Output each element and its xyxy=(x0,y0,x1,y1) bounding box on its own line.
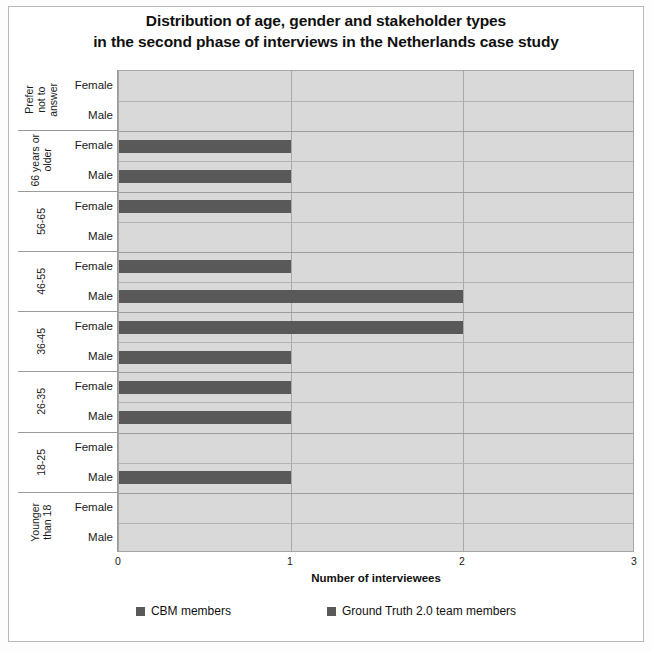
age-group-row: Younger than 18FemaleMale xyxy=(18,492,118,552)
gender-label-male: Male xyxy=(60,160,114,190)
chart-legend: CBM membersGround Truth 2.0 team members xyxy=(0,604,652,618)
mid-gridline xyxy=(119,463,633,464)
gender-label-pair: FemaleMale xyxy=(60,251,114,311)
age-group-row: 18-25FemaleMale xyxy=(18,432,118,492)
bar xyxy=(119,471,291,484)
x-axis-tick-label: 2 xyxy=(459,555,465,567)
gender-label-female: Female xyxy=(60,371,114,401)
group-separator-gridline xyxy=(119,252,633,253)
gender-label-female: Female xyxy=(60,70,114,100)
group-separator-gridline xyxy=(119,493,633,494)
age-group-label-text: 46-55 xyxy=(35,268,47,295)
age-group-label-text: 56-65 xyxy=(35,208,47,235)
legend-swatch-icon xyxy=(327,607,336,616)
age-group-row: 26-35FemaleMale xyxy=(18,371,118,431)
category-axis: Prefer not to answerFemaleMale66 years o… xyxy=(18,70,118,552)
bar xyxy=(119,411,291,424)
gender-label-pair: FemaleMale xyxy=(60,371,114,431)
gender-label-pair: FemaleMale xyxy=(60,70,114,130)
bar xyxy=(119,351,291,364)
age-group-label: 56-65 xyxy=(18,191,64,251)
gender-label-pair: FemaleMale xyxy=(60,130,114,190)
x-axis-tick-label: 0 xyxy=(115,555,121,567)
gender-label-pair: FemaleMale xyxy=(60,432,114,492)
chart-title-line-2: in the second phase of interviews in the… xyxy=(0,31,652,52)
vertical-gridline xyxy=(463,71,464,551)
bar xyxy=(119,381,291,394)
bar xyxy=(119,200,291,213)
age-group-row: 66 years or olderFemaleMale xyxy=(18,130,118,190)
age-group-label: 66 years or older xyxy=(18,130,64,190)
legend-item-label: CBM members xyxy=(151,604,231,618)
bar xyxy=(119,321,463,334)
gender-label-male: Male xyxy=(60,341,114,371)
gender-label-male: Male xyxy=(60,100,114,130)
legend-swatch-icon xyxy=(136,607,145,616)
chart-title: Distribution of age, gender and stakehol… xyxy=(0,10,652,52)
age-group-label-text: 66 years or older xyxy=(29,134,53,187)
bar xyxy=(119,140,291,153)
age-group-label-text: 26-35 xyxy=(35,388,47,415)
gender-label-female: Female xyxy=(60,191,114,221)
mid-gridline xyxy=(119,402,633,403)
age-group-row: Prefer not to answerFemaleMale xyxy=(18,70,118,130)
bar xyxy=(119,170,291,183)
gender-label-female: Female xyxy=(60,251,114,281)
age-group-label: Prefer not to answer xyxy=(18,70,64,130)
chart-title-line-1: Distribution of age, gender and stakehol… xyxy=(0,10,652,31)
mid-gridline xyxy=(119,101,633,102)
group-separator-gridline xyxy=(119,433,633,434)
mid-gridline xyxy=(119,282,633,283)
plot-area xyxy=(118,70,634,552)
age-group-label: 36-45 xyxy=(18,311,64,371)
age-group-label: 18-25 xyxy=(18,432,64,492)
gender-label-pair: FemaleMale xyxy=(60,191,114,251)
age-group-label-text: 18-25 xyxy=(35,449,47,476)
gender-label-male: Male xyxy=(60,281,114,311)
group-separator-gridline xyxy=(119,372,633,373)
age-group-label-text: Prefer not to answer xyxy=(23,83,59,117)
group-separator-gridline xyxy=(119,131,633,132)
gender-label-female: Female xyxy=(60,492,114,522)
gender-label-male: Male xyxy=(60,221,114,251)
gender-label-male: Male xyxy=(60,522,114,552)
legend-item[interactable]: CBM members xyxy=(136,604,231,618)
mid-gridline xyxy=(119,523,633,524)
legend-item[interactable]: Ground Truth 2.0 team members xyxy=(327,604,516,618)
x-axis-title: Number of interviewees xyxy=(118,572,634,584)
mid-gridline xyxy=(119,161,633,162)
bar xyxy=(119,290,463,303)
age-group-row: 36-45FemaleMale xyxy=(18,311,118,371)
gender-label-male: Male xyxy=(60,462,114,492)
vertical-gridline xyxy=(291,71,292,551)
age-group-label: 26-35 xyxy=(18,371,64,431)
x-axis-tick-label: 3 xyxy=(631,555,637,567)
age-group-label-text: 36-45 xyxy=(35,328,47,355)
chart-page: Distribution of age, gender and stakehol… xyxy=(0,0,652,652)
gender-label-pair: FemaleMale xyxy=(60,492,114,552)
gender-label-pair: FemaleMale xyxy=(60,311,114,371)
gender-label-female: Female xyxy=(60,311,114,341)
gender-label-female: Female xyxy=(60,130,114,160)
x-axis-tick-label: 1 xyxy=(287,555,293,567)
group-separator-gridline xyxy=(119,312,633,313)
age-group-label-text: Younger than 18 xyxy=(29,503,53,542)
group-separator-gridline xyxy=(119,192,633,193)
mid-gridline xyxy=(119,342,633,343)
legend-item-label: Ground Truth 2.0 team members xyxy=(342,604,516,618)
age-group-label: Younger than 18 xyxy=(18,492,64,552)
bar xyxy=(119,260,291,273)
gender-label-male: Male xyxy=(60,401,114,431)
age-group-row: 56-65FemaleMale xyxy=(18,191,118,251)
age-group-label: 46-55 xyxy=(18,251,64,311)
gender-label-female: Female xyxy=(60,432,114,462)
x-axis-ticks: 0123 xyxy=(118,553,634,573)
age-group-row: 46-55FemaleMale xyxy=(18,251,118,311)
mid-gridline xyxy=(119,222,633,223)
